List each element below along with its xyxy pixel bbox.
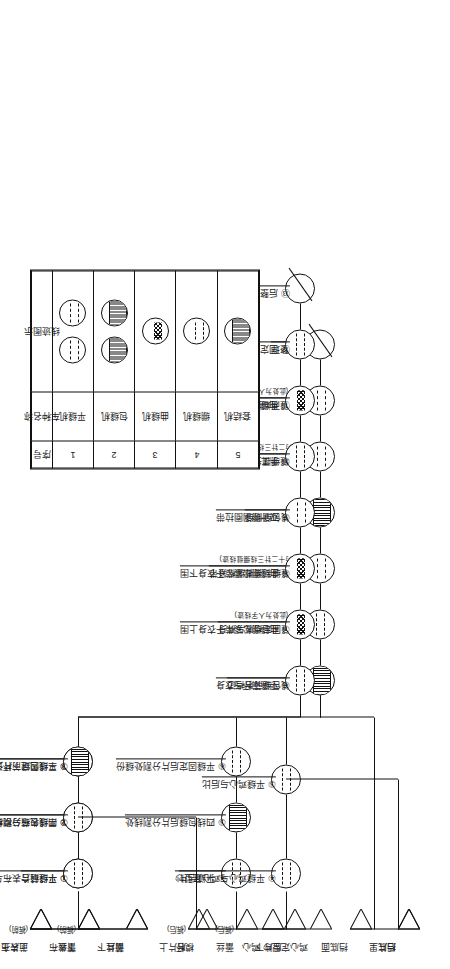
legend-machine-name: 套结机: [217, 392, 258, 441]
process-flow-diagram: 前片上(裤前)蕾丝(裤前)前片下后片上(裤后)蕾丝(裤后)后片下挡底面挡底里① …: [0, 0, 450, 969]
legend-index-text: 2: [112, 449, 117, 459]
legend-index: 4: [176, 441, 217, 468]
legend-index: 1: [52, 441, 93, 468]
chain-link: [300, 303, 301, 329]
step-label-⑥: ⑥ 平缝固定后片分割处缝份: [116, 758, 226, 770]
chain-link: [320, 639, 321, 665]
chain-link: [320, 359, 321, 385]
legend-machine-name: 包缝机: [93, 392, 134, 441]
legend-machine-text: 套结机: [224, 410, 251, 423]
back-group-lead: [236, 891, 237, 929]
legend-machine-name: 绷缝机: [176, 392, 217, 441]
legend-index-text: 5: [235, 449, 240, 459]
material-triangle: [398, 909, 420, 929]
legend-machine-name: 曲缝机: [135, 392, 176, 441]
legend-glyph-overlock: [101, 336, 128, 363]
legend-header-0: 序号: [32, 441, 53, 468]
material-triangle: [350, 909, 372, 929]
material-label: 模杯: [176, 940, 194, 953]
material-挡底面: [350, 909, 372, 929]
chain-link: [320, 527, 321, 553]
step-label-⑤: ⑤ 平缝鸡心与后比: [202, 776, 276, 788]
fabric-merge: [78, 717, 79, 746]
material-后片: [398, 909, 420, 929]
legend-row: 5套结机: [217, 271, 258, 468]
chain-link: [320, 415, 321, 441]
backpiece-lead: [398, 779, 399, 929]
legend-table: 序号车种名称线迹图示1平缝机2包缝机3曲缝机4绷缝机5套结机: [30, 269, 260, 469]
cup-bus: [78, 816, 196, 817]
material-triangle: [284, 909, 306, 929]
material-triangle: [310, 909, 332, 929]
material-蕾丝: [236, 909, 258, 929]
legend-glyph-group: [94, 271, 134, 391]
material-上表布: [30, 909, 52, 929]
legend-machine-text: 平缝机: [59, 410, 86, 423]
legend-glyph-group: [53, 271, 93, 391]
core-merge: [286, 717, 287, 764]
material-sublabel: (裤后): [167, 924, 186, 935]
material-triangle: [236, 909, 258, 929]
chain-link: [300, 359, 301, 385]
step-label-②: ② 平缝表布与模杯: [0, 814, 68, 826]
bottom-main-bus: [78, 716, 286, 717]
chain-link: [320, 471, 321, 497]
legend-glyph-zig: [142, 318, 169, 345]
chain-link: [78, 832, 79, 858]
step-label-⑧: ⑧ 曲缝绷松紧带于衣身下围: [180, 565, 290, 577]
legend-row: 2包缝机: [93, 271, 134, 468]
step-label-⑥: ⑥ 平缝罩杯与衣身: [216, 677, 290, 689]
legend-index: 3: [135, 441, 176, 468]
material-triangle: [30, 909, 52, 929]
chain-link: [320, 583, 321, 609]
chain-link: [300, 527, 301, 553]
legend-machine-text: 包缝机: [101, 410, 128, 423]
step-label-③: ③ 三线包缝下杯边: [0, 758, 68, 770]
legend-glyph-flat: [59, 336, 86, 363]
material-label: 蕾丝: [106, 940, 124, 953]
material-后片下: [284, 909, 306, 929]
material-下表布: [78, 909, 100, 929]
material-label: 蕾丝: [216, 940, 234, 953]
legend-machine-text: 绷缝机: [183, 410, 210, 423]
legend-stitch-diagram: [217, 271, 258, 392]
step-label-①: ① 平缝缝合表布与蕾丝: [0, 870, 68, 882]
legend-glyph-bartack: [224, 318, 251, 345]
chain-link: [300, 639, 301, 665]
material-sublabel: (裤前): [57, 924, 76, 935]
legend-stitch-diagram: [52, 271, 93, 392]
core-group-lead: [286, 891, 287, 929]
chain-link: [300, 415, 301, 441]
step-sublabel-⑦: (此处为人字线迹): [235, 610, 288, 620]
legend-machine-text: 曲缝机: [142, 410, 169, 423]
legend-glyph-group: [176, 271, 216, 391]
legend-stitch-diagram: [93, 271, 134, 392]
material-label: 鸡心定型纱: [263, 940, 308, 953]
bottom-main-drop: [286, 716, 300, 717]
chain-link: [300, 583, 301, 609]
material-triangle: [78, 909, 100, 929]
legend-header-2: 线迹图示: [32, 271, 53, 392]
material-label: 后片: [378, 940, 396, 953]
material-triangle: [262, 909, 284, 929]
chain-link: [236, 832, 237, 858]
legend-stitch-diagram: [176, 271, 217, 392]
material-triangle: [126, 909, 148, 929]
step-label-④: ④ 平缝鸡心与鸡心定型纱: [175, 870, 276, 882]
legend-index: 5: [217, 441, 258, 468]
legend-header-text: 车种名称: [24, 410, 60, 423]
legend-row: 3曲缝机: [135, 271, 176, 468]
material-label: 挡底面: [321, 940, 348, 953]
step-label-⑨: ⑨ 双针绷钢圈拉带: [216, 509, 290, 521]
legend-index-text: 1: [70, 449, 75, 459]
back-merge: [236, 717, 237, 746]
material-蕾丝: [126, 909, 148, 929]
legend-machine-name: 平缝机: [52, 392, 93, 441]
material-模杯: [196, 909, 218, 929]
material-label: 鸡心: [242, 940, 260, 953]
legend-glyph-group: [135, 271, 175, 391]
legend-row: 4绷缝机: [176, 271, 217, 468]
legend-row: 1平缝机: [52, 271, 93, 468]
legend-header-1: 车种名称: [32, 392, 53, 441]
legend-index-text: 3: [153, 449, 158, 459]
